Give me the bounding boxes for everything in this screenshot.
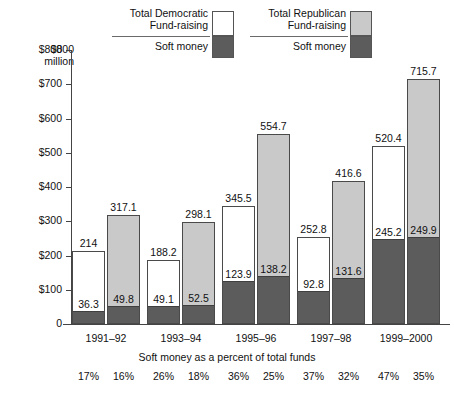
bar-soft-money-segment bbox=[148, 306, 179, 323]
bar-total-value-label: 252.8 bbox=[289, 224, 338, 235]
bar-democratic-1993-94 bbox=[147, 260, 180, 324]
bar-republican-1991-92 bbox=[107, 215, 140, 324]
chart-figure: Total Democratic Fund-raising Soft money… bbox=[0, 0, 454, 396]
bar-soft-money-segment bbox=[298, 291, 329, 323]
bar-republican-1999-2000 bbox=[407, 79, 440, 324]
bar-total-value-label: 554.7 bbox=[249, 121, 298, 132]
bar-total-value-label: 520.4 bbox=[364, 133, 413, 144]
bar-total-value-label: 298.1 bbox=[174, 209, 223, 220]
bar-soft-money-segment bbox=[333, 278, 364, 323]
bar-republican-1995-96 bbox=[257, 134, 290, 324]
bar-total-value-label: 214 bbox=[64, 238, 113, 249]
bar-soft-money-segment bbox=[223, 281, 254, 323]
bar-soft-money-segment bbox=[73, 311, 104, 323]
bar-republican-1993-94 bbox=[182, 222, 215, 324]
bar-soft-money-value-label: 92.8 bbox=[289, 279, 338, 290]
soft-money-percent-label: 35% bbox=[399, 370, 448, 382]
bar-total-value-label: 715.7 bbox=[399, 66, 448, 77]
bar-soft-money-value-label: 52.5 bbox=[174, 293, 223, 304]
bar-republican-1997-98 bbox=[332, 181, 365, 324]
bar-soft-money-value-label: 131.6 bbox=[324, 266, 373, 277]
bar-total-value-label: 317.1 bbox=[99, 202, 148, 213]
x-axis-group-label: 1999–2000 bbox=[361, 332, 451, 344]
chart-footnote: Soft money as a percent of total funds bbox=[0, 351, 454, 363]
bar-soft-money-segment bbox=[373, 239, 404, 323]
bar-soft-money-value-label: 249.9 bbox=[399, 225, 448, 236]
bar-total-value-label: 345.5 bbox=[214, 193, 263, 204]
bar-soft-money-segment bbox=[108, 306, 139, 323]
bar-soft-money-value-label: 138.2 bbox=[249, 264, 298, 275]
bar-soft-money-segment bbox=[408, 237, 439, 323]
bar-democratic-1991-92 bbox=[72, 251, 105, 324]
bar-soft-money-segment bbox=[183, 305, 214, 323]
bar-total-value-label: 188.2 bbox=[139, 247, 188, 258]
bar-total-value-label: 416.6 bbox=[324, 168, 373, 179]
bar-soft-money-segment bbox=[258, 276, 289, 323]
